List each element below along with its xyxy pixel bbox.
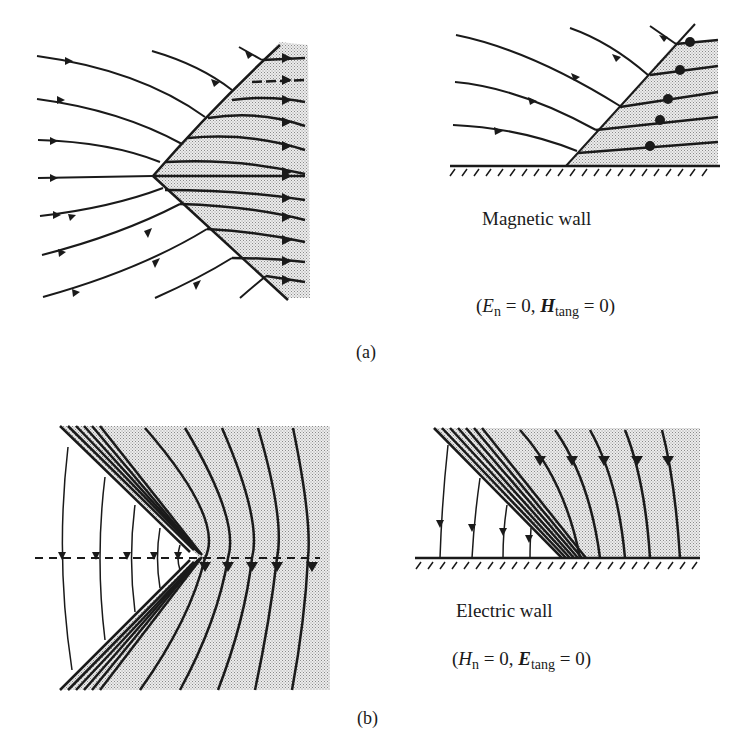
- diagram-a-right: [450, 24, 720, 176]
- panel-label-a: (a): [356, 342, 376, 363]
- panel-label-b: (b): [357, 708, 378, 729]
- field-e: E: [482, 295, 494, 316]
- magnetic-wall-label: Magnetic wall: [482, 208, 591, 230]
- diagram-b-right: [415, 428, 700, 569]
- diagram-b-left: [35, 426, 330, 690]
- subscript-tang: tang: [555, 304, 579, 319]
- equals-zero: = 0,: [479, 648, 518, 669]
- equals-zero: = 0,: [501, 295, 540, 316]
- field-e: E: [518, 648, 531, 669]
- subscript-tang: tang: [531, 657, 555, 672]
- field-h: H: [458, 648, 472, 669]
- magnetic-wall-condition: (En = 0, Htang = 0): [476, 295, 615, 320]
- subscript-n: n: [472, 657, 479, 672]
- equals-zero-close: = 0): [579, 295, 615, 316]
- wall-hatching: [450, 169, 707, 176]
- equals-zero-close: = 0): [555, 648, 591, 669]
- electric-wall-label: Electric wall: [456, 600, 553, 622]
- figure-canvas: [0, 0, 740, 750]
- electric-wall-condition: (Hn = 0, Etang = 0): [452, 648, 591, 673]
- wall-hatching: [416, 562, 697, 569]
- subscript-n: n: [494, 304, 501, 319]
- field-h: H: [540, 295, 555, 316]
- diagram-a-left: [37, 42, 310, 300]
